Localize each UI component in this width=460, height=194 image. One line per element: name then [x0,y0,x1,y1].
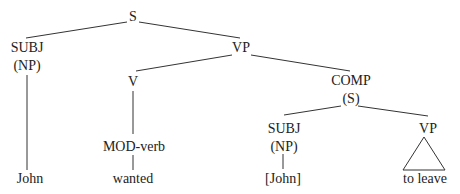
vp-triangle-icon [403,137,445,170]
edge-comp-subj [284,106,341,115]
leaf-to-leave: to leave [403,171,447,186]
edge-vp-v [136,55,232,71]
node-comp-s: (S) [342,91,359,107]
node-vp-2: VP [419,121,437,136]
edge-s-vp [139,22,240,38]
leaf-wanted: wanted [113,171,153,186]
node-v: V [128,74,138,89]
syntax-tree-diagram: S SUBJ (NP) VP V COMP (S) MOD-verb SUBJ … [0,0,460,194]
node-s: S [129,9,137,24]
tree-canvas: S SUBJ (NP) VP V COMP (S) MOD-verb SUBJ … [0,0,460,194]
edge-s-subj [26,22,127,38]
edge-vp-comp [251,55,350,71]
node-subj-2: SUBJ [268,121,301,136]
edge-comp-vp [358,106,428,116]
node-subj-np-2: (NP) [270,139,298,155]
node-subj: SUBJ [11,40,44,55]
leaf-john: John [17,171,43,186]
node-mod-verb: MOD-verb [103,139,165,154]
node-subj-np: (NP) [13,58,41,74]
node-vp: VP [232,40,250,55]
leaf-john-bracket: [John] [265,171,301,186]
node-comp: COMP [331,73,371,88]
